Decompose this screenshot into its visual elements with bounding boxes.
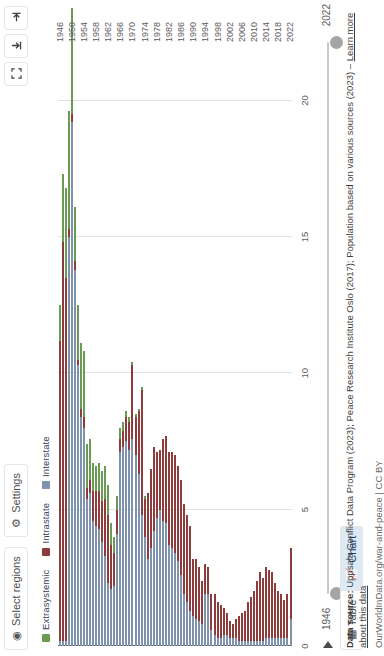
bar-segment-interstate (110, 589, 112, 646)
bar-segment-extrasystemic (101, 471, 103, 501)
bar-row[interactable] (207, 0, 209, 656)
bar-row[interactable] (286, 0, 288, 656)
bar-row[interactable] (280, 0, 282, 656)
bar-row[interactable] (180, 0, 182, 656)
bar-row[interactable] (95, 0, 97, 656)
bar-row[interactable] (135, 0, 137, 656)
bar-row[interactable] (247, 0, 249, 656)
legend-item-intrastate[interactable]: Intrastate (40, 503, 51, 556)
bar-row[interactable] (159, 0, 161, 656)
bar-row[interactable] (77, 0, 79, 656)
bar-row[interactable] (201, 0, 203, 656)
bar-row[interactable] (268, 0, 270, 656)
bar-row[interactable] (177, 0, 179, 656)
bar-row[interactable] (86, 0, 88, 656)
bar-row[interactable] (141, 0, 143, 656)
bar-row[interactable] (223, 0, 225, 656)
bar-row[interactable] (165, 0, 167, 656)
bar-row[interactable] (65, 0, 67, 656)
bar-row[interactable] (217, 0, 219, 656)
bar-row[interactable] (138, 0, 140, 656)
share-icon[interactable] (4, 6, 28, 30)
bar-row[interactable] (262, 0, 264, 656)
bar-row[interactable] (128, 0, 130, 656)
bar-row[interactable] (235, 0, 237, 656)
bar-row[interactable] (183, 0, 185, 656)
bar-row[interactable] (162, 0, 164, 656)
bar-row[interactable] (104, 0, 106, 656)
bar-row[interactable] (116, 0, 118, 656)
bar-row[interactable] (274, 0, 276, 656)
bar-segment-extrasystemic (128, 417, 130, 422)
bar-row[interactable] (174, 0, 176, 656)
bar-row[interactable] (107, 0, 109, 656)
bar-row[interactable] (147, 0, 149, 656)
bar-segment-interstate (119, 452, 121, 646)
bar-row[interactable] (168, 0, 170, 656)
bar-row[interactable] (153, 0, 155, 656)
bar-row[interactable] (156, 0, 158, 656)
bar-row[interactable] (214, 0, 216, 656)
bar-segment-intrastate (244, 611, 246, 641)
bar-row[interactable] (119, 0, 121, 656)
bar-row[interactable] (83, 0, 85, 656)
globe-icon: ◉ (11, 631, 22, 641)
bar-row[interactable] (232, 0, 234, 656)
bar-row[interactable] (125, 0, 127, 656)
legend-item-extrasystemic[interactable]: Extrasystemic (40, 570, 51, 642)
bar-row[interactable] (256, 0, 258, 656)
bar-row[interactable] (277, 0, 279, 656)
bar-row[interactable] (122, 0, 124, 656)
bar-row[interactable] (244, 0, 246, 656)
bar-row[interactable] (74, 0, 76, 656)
timeline-handle-end[interactable] (330, 36, 343, 49)
bar-row[interactable] (131, 0, 133, 656)
bar-row[interactable] (290, 0, 292, 656)
bar-row[interactable] (241, 0, 243, 656)
bar-row[interactable] (265, 0, 267, 656)
download-icon[interactable] (4, 34, 28, 58)
bar-row[interactable] (283, 0, 285, 656)
bar-segment-intrastate (135, 417, 137, 455)
bar-row[interactable] (253, 0, 255, 656)
bar-row[interactable] (229, 0, 231, 656)
bar-row[interactable] (113, 0, 115, 656)
settings-button[interactable]: ⚙ Settings (4, 464, 28, 537)
bar-row[interactable] (271, 0, 273, 656)
bar-row[interactable] (89, 0, 91, 656)
bar-row[interactable] (62, 0, 64, 656)
bar-row[interactable] (198, 0, 200, 656)
bar-row[interactable] (92, 0, 94, 656)
bar-row[interactable] (226, 0, 228, 656)
bar-row[interactable] (171, 0, 173, 656)
timeline-track[interactable] (327, 42, 329, 594)
bar-row[interactable] (250, 0, 252, 656)
bar-row[interactable] (68, 0, 70, 656)
bar-row[interactable] (195, 0, 197, 656)
bar-row[interactable] (101, 0, 103, 656)
expand-icon[interactable] (4, 62, 28, 86)
play-icon[interactable] (323, 641, 333, 648)
bar-row[interactable] (259, 0, 261, 656)
bar-row[interactable] (98, 0, 100, 656)
bar-segment-intrastate (226, 613, 228, 635)
bar-row[interactable] (210, 0, 212, 656)
bar-row[interactable] (220, 0, 222, 656)
bar-segment-interstate (162, 521, 164, 646)
bar-row[interactable] (59, 0, 61, 656)
bar-row[interactable] (192, 0, 194, 656)
x-axis-tick-0: 0 (299, 643, 310, 648)
bar-segment-interstate (86, 499, 88, 646)
bar-row[interactable] (80, 0, 82, 656)
bar-row[interactable] (189, 0, 191, 656)
bar-row[interactable] (144, 0, 146, 656)
select-regions-button[interactable]: ◉ Select regions (4, 547, 28, 650)
bar-row[interactable] (186, 0, 188, 656)
bar-row[interactable] (71, 0, 73, 656)
bar-row[interactable] (110, 0, 112, 656)
legend-item-interstate[interactable]: Interstate (40, 436, 51, 489)
bar-row[interactable] (150, 0, 152, 656)
bar-row[interactable] (204, 0, 206, 656)
bar-row[interactable] (238, 0, 240, 656)
